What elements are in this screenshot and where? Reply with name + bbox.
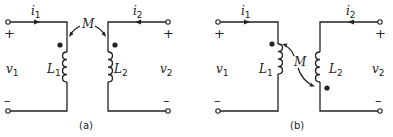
minus-sign-right: – bbox=[163, 93, 170, 108]
inductor-coil-icon bbox=[108, 52, 113, 82]
current-arrow-icon bbox=[34, 20, 40, 25]
polarity-dot-icon bbox=[112, 42, 117, 47]
terminal-icon bbox=[166, 109, 170, 113]
terminal-icon bbox=[216, 20, 220, 24]
minus-sign-left: – bbox=[214, 93, 221, 108]
terminal-icon bbox=[166, 20, 170, 24]
mutual-inductance-label: M bbox=[81, 17, 95, 31]
terminal-icon bbox=[6, 109, 10, 113]
current-arrow-icon bbox=[244, 20, 250, 25]
voltage-label-v2: v2 bbox=[160, 62, 173, 78]
inductor-coil-icon bbox=[63, 52, 68, 82]
current-label-i1: i1 bbox=[241, 4, 251, 20]
current-arrow-icon bbox=[135, 20, 141, 25]
inductor-label-l2: L2 bbox=[328, 62, 343, 78]
current-label-i2: i2 bbox=[133, 4, 143, 20]
caption-b: (b) bbox=[290, 120, 304, 131]
inductor-label-l2: L2 bbox=[113, 62, 128, 78]
terminal-icon bbox=[378, 109, 382, 113]
coupled-inductors-diagram: i1 i2 M + + – – v1 v2 L1 L2 (a) bbox=[0, 0, 393, 137]
voltage-label-v1: v1 bbox=[216, 62, 229, 78]
caption-a: (a) bbox=[79, 120, 93, 131]
terminal-icon bbox=[216, 109, 220, 113]
minus-sign-left: – bbox=[4, 93, 11, 108]
panel-b: i1 i2 M + + – – v1 v2 L1 L2 (b) bbox=[214, 4, 386, 131]
polarity-dot-icon bbox=[324, 85, 329, 90]
terminal-icon bbox=[378, 20, 382, 24]
plus-sign-left: + bbox=[214, 26, 225, 41]
voltage-label-v1: v1 bbox=[6, 62, 19, 78]
inductor-label-l1: L1 bbox=[46, 62, 61, 78]
polarity-dot-icon bbox=[269, 41, 274, 46]
current-label-i2: i2 bbox=[346, 4, 356, 20]
voltage-label-v2: v2 bbox=[372, 62, 385, 78]
panel-a: i1 i2 M + + – – v1 v2 L1 L2 (a) bbox=[4, 4, 174, 131]
current-label-i1: i1 bbox=[31, 4, 41, 20]
inductor-coil-icon bbox=[316, 52, 321, 82]
plus-sign-right: + bbox=[163, 26, 174, 41]
polarity-dot-icon bbox=[57, 42, 62, 47]
inductor-label-l1: L1 bbox=[258, 62, 273, 78]
inductor-coil-icon bbox=[278, 44, 283, 74]
plus-sign-right: + bbox=[375, 26, 386, 41]
plus-sign-left: + bbox=[4, 26, 15, 41]
current-arrow-icon bbox=[348, 20, 354, 25]
mutual-inductance-label: M bbox=[293, 55, 307, 69]
terminal-icon bbox=[6, 20, 10, 24]
minus-sign-right: – bbox=[375, 93, 382, 108]
